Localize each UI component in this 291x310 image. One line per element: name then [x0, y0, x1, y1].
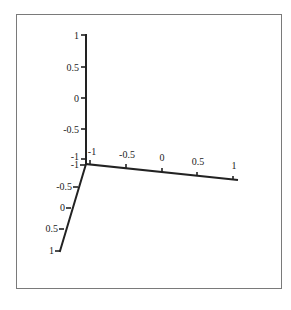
x-tick-label: -1 [88, 146, 96, 157]
z-tick-label: -0.5 [63, 124, 79, 135]
x-tick-label: -0.5 [119, 149, 135, 160]
y-tick-label: -0.5 [56, 181, 72, 192]
x-tick-label: 0 [160, 152, 165, 163]
y-tick-label: 1 [49, 245, 54, 256]
x-tick-label: 1 [232, 160, 237, 171]
x-tick-label: 0.5 [192, 156, 205, 167]
y-tick-label: 0.5 [46, 223, 59, 234]
z-axis-tick-labels: 1 0.5 0 -0.5 -1 [63, 30, 79, 162]
3d-axes-plot: 1 0.5 0 -0.5 -1 -1 -0.5 0 0.5 1 -1 -0.5 … [0, 0, 291, 310]
y-tick-label: -1 [71, 159, 79, 170]
y-tick-label: 0 [60, 202, 65, 213]
z-tick-label: 0.5 [67, 62, 80, 73]
z-tick-label: 0 [74, 93, 79, 104]
z-tick-label: 1 [74, 30, 79, 41]
